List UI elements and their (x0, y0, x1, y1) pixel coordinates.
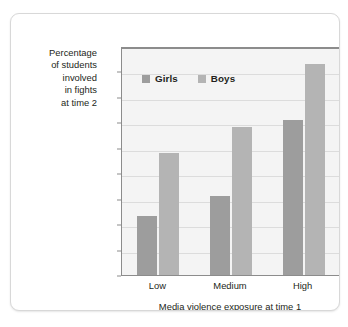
legend-entry-boys: Boys (198, 73, 235, 84)
x-axis-category-low: Low (149, 280, 166, 291)
x-axis-category-high: High (293, 280, 312, 291)
bar-boys-high (305, 64, 325, 275)
legend-swatch-icon-boys (198, 75, 206, 83)
x-axis-category-medium: Medium (213, 280, 246, 291)
plot-area: GirlsBoys (121, 47, 339, 276)
bar-girls-high (283, 120, 303, 275)
chart-legend: GirlsBoys (142, 73, 235, 84)
y-axis-title-line-1: Percentage (19, 47, 97, 59)
y-axis-title-line-2: of students (19, 59, 97, 71)
legend-label-boys: Boys (211, 73, 235, 84)
legend-label-girls: Girls (155, 73, 178, 84)
bar-girls-low (137, 216, 157, 275)
x-axis-title: Media violence exposure at time 1 (121, 301, 339, 311)
bar-girls-medium (210, 196, 230, 275)
legend-entry-girls: Girls (142, 73, 178, 84)
figure-card: Percentageof studentsinvolvedin fightsat… (10, 13, 340, 311)
y-axis-title-line-4: in fights (19, 84, 97, 96)
y-axis-title-line-5: at time 2 (19, 97, 97, 109)
bar-boys-medium (232, 127, 252, 275)
y-axis-title: Percentageof studentsinvolvedin fightsat… (19, 47, 97, 109)
legend-swatch-icon-girls (142, 75, 150, 83)
bar-boys-low (159, 153, 179, 275)
y-axis-title-line-3: involved (19, 72, 97, 84)
